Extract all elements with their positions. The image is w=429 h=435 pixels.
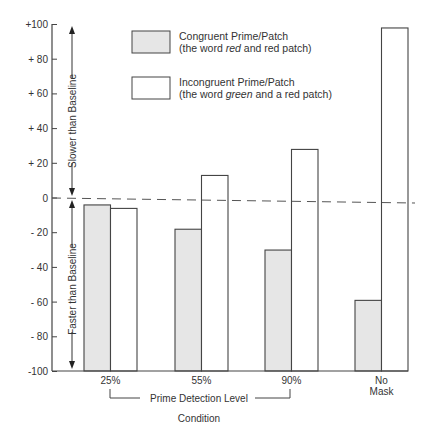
bar-incongruent-2 xyxy=(292,149,319,371)
legend-sublabel: (the word green and a red patch) xyxy=(179,88,332,100)
arrow-head-icon xyxy=(69,188,75,196)
slower-than-baseline-label: Slower than Baseline xyxy=(67,74,78,168)
bar-incongruent-1 xyxy=(202,175,229,371)
legend-label: Incongruent Prime/Patch xyxy=(179,76,295,88)
y-tick-label: - 20 xyxy=(31,227,49,238)
y-tick-label: + 60 xyxy=(28,88,48,99)
y-tick-label: + 80 xyxy=(28,54,48,65)
x-tick-label: Mask xyxy=(370,386,395,397)
x-tick-label: 25% xyxy=(100,375,120,386)
y-tick-label: + 40 xyxy=(28,123,48,134)
arrow-head-icon xyxy=(69,26,75,34)
bar-chart: +100+ 80+ 60+ 40+ 200- 20- 40- 60- 80-10… xyxy=(0,0,429,435)
bar-incongruent-3 xyxy=(382,28,409,371)
bar-congruent-1 xyxy=(175,229,202,371)
x-axis: 25%55%90%NoMaskPrime Detection LevelCond… xyxy=(52,371,408,424)
legend-swatch-congruent xyxy=(132,31,170,53)
baseline-annotations: Slower than BaselineFaster than Baseline xyxy=(67,26,78,369)
x-tick-label: 90% xyxy=(281,375,301,386)
faster-than-baseline-label: Faster than Baseline xyxy=(67,243,78,335)
bar-congruent-2 xyxy=(265,250,292,371)
legend-sublabel: (the word red and red patch) xyxy=(179,42,312,54)
x-tick-label: No xyxy=(375,375,388,386)
y-tick-label: - 80 xyxy=(31,331,49,342)
legend-swatch-incongruent xyxy=(132,77,170,99)
baseline-dashed-line xyxy=(52,198,415,203)
legend-label: Congruent Prime/Patch xyxy=(179,30,288,42)
y-tick-label: - 60 xyxy=(31,297,49,308)
bar-congruent-0 xyxy=(84,205,111,371)
legend: Congruent Prime/Patch(the word red and r… xyxy=(132,30,332,100)
arrow-head-icon xyxy=(69,361,75,369)
y-tick-label: 0 xyxy=(42,193,48,204)
x-tick-label: 55% xyxy=(191,375,211,386)
y-tick-label: -100 xyxy=(28,366,48,377)
y-tick-label: +100 xyxy=(25,19,48,30)
bar-congruent-3 xyxy=(355,300,382,371)
y-tick-label: + 20 xyxy=(28,158,48,169)
prime-detection-level-label: Prime Detection Level xyxy=(150,393,248,404)
arrow-head-icon xyxy=(69,200,75,208)
x-axis-title: Condition xyxy=(178,413,220,424)
bar-incongruent-0 xyxy=(111,208,138,371)
group-bracket-left xyxy=(110,389,140,398)
group-bracket-right xyxy=(255,389,290,398)
y-tick-label: - 40 xyxy=(31,262,49,273)
